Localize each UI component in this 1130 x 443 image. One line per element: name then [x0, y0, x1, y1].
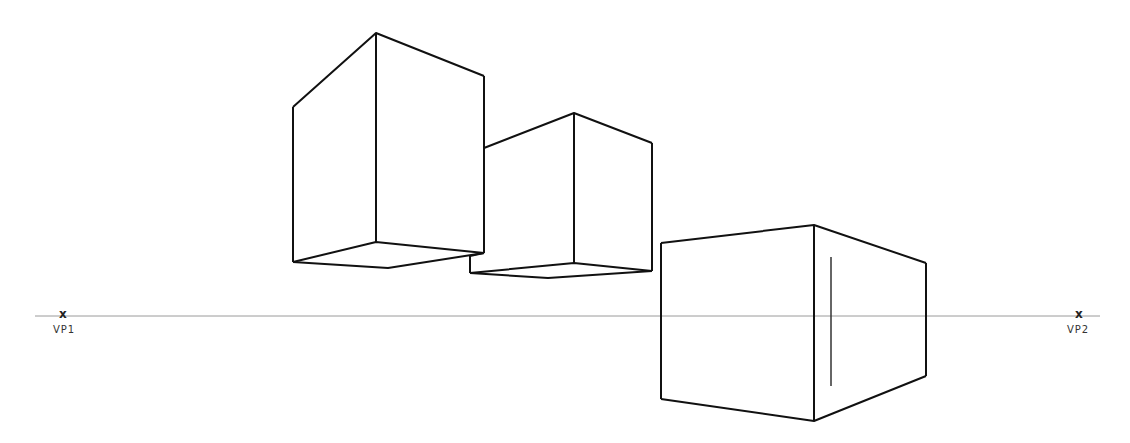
box-1: [293, 33, 484, 268]
vp1-label: VP1: [53, 324, 75, 335]
vp2-label: VP2: [1067, 324, 1089, 335]
vp2-marker: x: [1075, 307, 1083, 321]
box-2: [470, 113, 652, 278]
vp1-marker: x: [59, 307, 67, 321]
perspective-diagram: [0, 0, 1130, 443]
box-3: [661, 225, 926, 421]
